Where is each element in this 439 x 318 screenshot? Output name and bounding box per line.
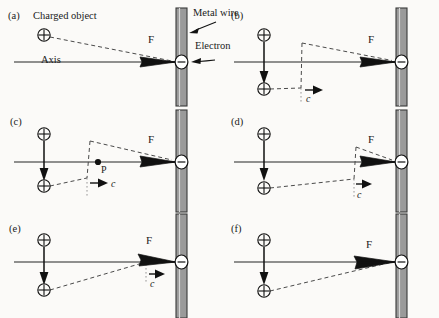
electron-symbol <box>395 55 408 69</box>
field-line-outer <box>90 141 172 160</box>
positive-charge-symbol-moved <box>258 182 270 194</box>
speed-label-b: c <box>306 94 310 104</box>
panel-e-drawing <box>0 212 219 318</box>
panel-letter-e: (e) <box>9 224 21 235</box>
point-p-label: P <box>101 165 107 175</box>
panel-letter-c: (c) <box>10 117 22 128</box>
panel-f: (f) F <box>220 212 439 318</box>
panel-b-drawing <box>220 0 439 106</box>
panel-b: (b) F c <box>220 0 439 106</box>
speed-label-e: c <box>150 279 154 289</box>
electron-symbol <box>395 155 408 169</box>
charge-motion-arrow <box>260 141 269 181</box>
charged-object-label: Charged object <box>33 11 97 22</box>
force-arrow <box>140 156 176 167</box>
panel-letter-f: (f) <box>231 224 242 235</box>
speed-of-light-arrow <box>90 179 108 188</box>
force-label-d: F <box>368 134 374 145</box>
positive-charge-symbol-moved <box>258 83 270 95</box>
electron-symbol <box>175 155 188 169</box>
electron-symbol <box>175 55 188 69</box>
metal-wire-leader-arrow <box>189 22 216 34</box>
force-arrow <box>140 57 176 67</box>
positive-charge-symbol <box>38 29 50 41</box>
electron-leader-arrow <box>191 58 215 64</box>
force-arrow <box>360 156 396 167</box>
force-label-b: F <box>368 34 374 45</box>
panel-letter-d: (d) <box>231 117 243 128</box>
charge-motion-arrow <box>260 42 269 84</box>
positive-charge-symbol-moved <box>38 180 50 192</box>
force-arrow <box>138 254 176 266</box>
positive-charge-symbol-origin <box>38 128 50 140</box>
force-arrow <box>354 256 396 269</box>
field-line-inner <box>270 179 354 188</box>
panel-f-drawing <box>220 212 439 318</box>
panel-letter-b: (b) <box>231 11 243 22</box>
field-line-inner <box>50 178 87 186</box>
charge-motion-arrow <box>260 247 269 285</box>
kink-segment <box>354 147 356 179</box>
positive-charge-symbol-moved <box>258 285 270 297</box>
panel-letter-a: (a) <box>8 11 20 22</box>
force-label-a: F <box>148 34 154 45</box>
charge-motion-arrow <box>40 141 49 181</box>
kink-segment <box>301 43 302 88</box>
electron-symbol <box>175 255 188 269</box>
positive-charge-symbol-origin <box>258 29 270 41</box>
physics-figure-radiation-kink: (a) Charged object Axis F Metal wire Ele… <box>0 0 439 318</box>
field-line-outer <box>302 43 392 61</box>
positive-charge-symbol-origin <box>258 234 270 246</box>
force-label-f: F <box>366 239 372 250</box>
charge-motion-arrow <box>40 247 49 285</box>
speed-of-light-arrow <box>356 180 372 189</box>
field-line-inner <box>270 88 301 89</box>
speed-label-c: c <box>111 179 115 189</box>
panel-c-drawing <box>0 106 219 212</box>
positive-charge-symbol-origin <box>258 128 270 140</box>
panel-d-drawing <box>220 106 439 212</box>
field-line <box>270 262 392 291</box>
panel-c: (c) F P c <box>0 106 219 212</box>
speed-label-d: c <box>357 190 361 200</box>
force-arrow <box>360 57 396 67</box>
force-label-e: F <box>146 235 152 246</box>
panel-a: (a) Charged object Axis F <box>0 0 219 106</box>
force-label-c: F <box>148 134 154 145</box>
positive-charge-symbol-origin <box>38 234 50 246</box>
electron-symbol <box>395 255 408 269</box>
axis-label: Axis <box>41 55 61 66</box>
panel-d: (d) F c <box>220 106 439 212</box>
panel-e: (e) F c <box>0 212 219 318</box>
positive-charge-symbol-moved <box>38 284 50 296</box>
kink-segment <box>87 141 90 178</box>
field-line-inner <box>50 262 146 290</box>
